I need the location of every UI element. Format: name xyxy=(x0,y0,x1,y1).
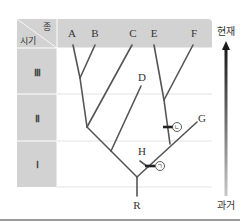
species-e-label: E xyxy=(151,28,158,39)
species-b-label: B xyxy=(91,28,98,39)
period-axis-label: 시기 xyxy=(20,37,36,46)
phylogenetic-tree-diagram: 종 시기 Ⅲ Ⅱ Ⅰ A B C E F D G H R ㄱ ㄴ 현재 과거 xyxy=(0,0,249,223)
branch-f xyxy=(164,45,193,100)
root-r-label: R xyxy=(133,200,140,211)
tree-branches xyxy=(73,45,197,196)
time-arrow-head-icon xyxy=(222,41,230,50)
present-label: 현재 xyxy=(217,27,235,37)
species-c-label: C xyxy=(129,28,136,39)
species-a-label: A xyxy=(68,28,76,39)
branch-ab xyxy=(80,78,87,127)
period-1-label: Ⅰ xyxy=(36,159,38,170)
past-label: 과거 xyxy=(217,201,235,211)
marker-nieun-label: ㄴ xyxy=(174,124,180,130)
branch-b xyxy=(80,45,95,78)
species-h-label: H xyxy=(138,146,146,157)
branch-c xyxy=(87,45,132,127)
species-f-label: F xyxy=(191,28,197,39)
tree-canvas xyxy=(0,0,249,223)
species-g-label: G xyxy=(198,113,206,124)
species-d-label: D xyxy=(138,72,146,83)
marker-giyeok-label: ㄱ xyxy=(157,163,163,169)
period-3-label: Ⅲ xyxy=(34,67,40,78)
time-arrow-shaft xyxy=(225,48,228,196)
branch-ef xyxy=(164,100,170,144)
bottom-divider xyxy=(0,219,240,221)
branch-a xyxy=(73,45,80,78)
period-2-label: Ⅱ xyxy=(35,113,39,124)
branch-left-main xyxy=(87,127,137,177)
branch-e xyxy=(154,45,164,100)
species-axis-label: 종 xyxy=(43,23,51,32)
